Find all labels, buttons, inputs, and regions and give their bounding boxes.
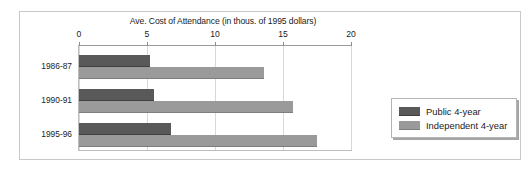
chart-figure: Ave. Cost of Attendance (in thous. of 19… — [19, 11, 521, 160]
x-tick-label-15: 15 — [278, 29, 288, 39]
tickmark-5 — [147, 42, 148, 46]
bar-group-1995-96: 1995-96 — [79, 123, 351, 147]
tickmark-10 — [215, 42, 216, 46]
x-tick-label-5: 5 — [145, 29, 150, 39]
category-label-1990-91: 1990-91 — [41, 95, 72, 105]
x-tick-label-20: 20 — [346, 29, 356, 39]
category-label-1995-96: 1995-96 — [41, 129, 72, 139]
legend-swatch-independent-icon — [399, 121, 420, 130]
tickmark-15 — [283, 42, 284, 46]
x-tick-label-10: 10 — [210, 29, 220, 39]
bar-public-1995-96[interactable] — [79, 123, 171, 135]
bar-independent-1995-96[interactable] — [79, 135, 317, 147]
bar-independent-1986-87[interactable] — [79, 67, 264, 79]
plot-area: 0 5 10 15 20 1986-87 1990-91 1995-96 — [78, 45, 352, 151]
legend-label-public: Public 4-year — [426, 106, 481, 117]
legend-item-public[interactable]: Public 4-year — [399, 106, 481, 117]
chart-legend: Public 4-year Independent 4-year — [391, 98, 517, 138]
x-tick-label-0: 0 — [77, 29, 82, 39]
bar-public-1986-87[interactable] — [79, 55, 150, 67]
bar-group-1986-87: 1986-87 — [79, 55, 351, 79]
legend-item-independent[interactable]: Independent 4-year — [399, 120, 507, 131]
tickmark-0 — [79, 42, 80, 46]
category-label-1986-87: 1986-87 — [41, 61, 72, 71]
chart-title: Ave. Cost of Attendance (in thous. of 19… — [78, 16, 368, 26]
bar-independent-1990-91[interactable] — [79, 101, 293, 113]
gridline-20 — [351, 46, 352, 150]
tickmark-20 — [351, 42, 352, 46]
legend-label-independent: Independent 4-year — [426, 120, 507, 131]
bar-group-1990-91: 1990-91 — [79, 89, 351, 113]
bar-public-1990-91[interactable] — [79, 89, 154, 101]
legend-swatch-public-icon — [399, 107, 420, 116]
